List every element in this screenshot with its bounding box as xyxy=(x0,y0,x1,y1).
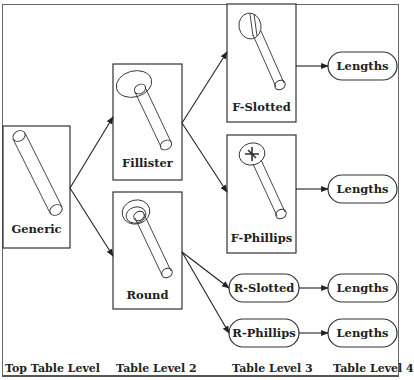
level-label-top: Top Table Level xyxy=(5,362,100,375)
node-label-round: Round xyxy=(113,288,182,302)
level-label-2: Table Level 2 xyxy=(116,362,197,375)
edge-round-rphillips xyxy=(182,252,229,333)
node-label-fillister: Fillister xyxy=(113,156,182,170)
node-label-r-slotted: R-Slotted xyxy=(229,275,299,301)
node-label-lengths-2: Lengths xyxy=(328,176,397,202)
edge-fillister-fslotted xyxy=(182,52,227,123)
edge-generic-round xyxy=(70,188,113,256)
node-label-lengths-3: Lengths xyxy=(328,275,397,301)
edge-fillister-fphillips xyxy=(182,123,227,192)
edge-generic-fillister xyxy=(70,117,113,188)
node-label-f-phillips: F-Phillips xyxy=(227,231,296,245)
node-label-lengths-4: Lengths xyxy=(328,320,397,346)
level-label-4: Table Level 4 xyxy=(333,362,414,375)
edge-round-rslotted xyxy=(182,252,229,288)
node-label-r-phillips: R-Phillips xyxy=(229,320,299,346)
node-label-lengths-1: Lengths xyxy=(328,53,397,79)
node-label-generic: Generic xyxy=(3,222,70,236)
level-label-3: Table Level 3 xyxy=(232,362,313,375)
node-label-f-slotted: F-Slotted xyxy=(227,100,296,114)
